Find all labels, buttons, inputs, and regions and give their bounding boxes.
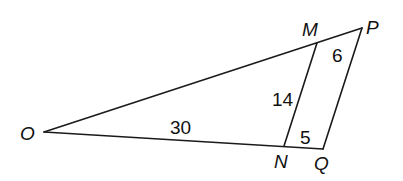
measure-on: 30 [170, 117, 191, 138]
triangle-diagram: O M P N Q 6 14 30 5 [0, 0, 403, 181]
vertex-label-n: N [274, 151, 288, 172]
measure-nq: 5 [300, 127, 311, 148]
vertex-label-m: M [302, 19, 318, 40]
segment-op [44, 28, 362, 132]
vertex-label-o: O [20, 123, 35, 144]
vertex-label-p: P [366, 17, 379, 38]
vertex-label-q: Q [314, 153, 329, 174]
measure-mn: 14 [272, 89, 294, 110]
measure-mp: 6 [332, 45, 343, 66]
